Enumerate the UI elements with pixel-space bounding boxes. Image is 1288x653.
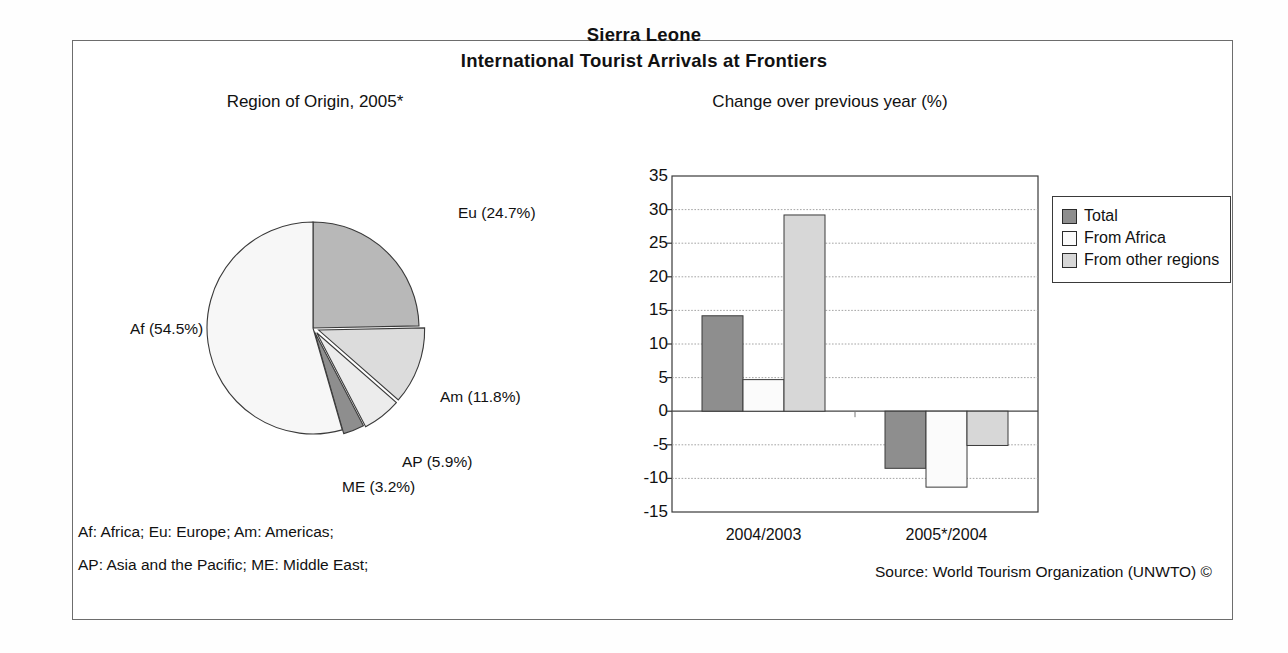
- legend-label-0: Total: [1084, 208, 1118, 224]
- legend-swatch-icon-2: [1062, 253, 1077, 268]
- footnote-regions-1: Af: Africa; Eu: Europe; Am: Americas;: [78, 523, 334, 541]
- bar-chart-legend: TotalFrom AfricaFrom other regions: [1052, 196, 1231, 283]
- bar-chart-title: Change over previous year (%): [610, 92, 1050, 112]
- legend-item-from-africa: From Africa: [1062, 230, 1219, 246]
- pie-label-ap: AP (5.9%): [402, 453, 472, 471]
- x-axis-label-1: 2005*/2004: [855, 526, 1038, 544]
- document-page: Sierra Leone International Tourist Arriv…: [0, 0, 1288, 653]
- bar-chart-x-axis: 2004/20032005*/2004: [620, 120, 1180, 530]
- pie-slice-eu: [313, 222, 419, 328]
- bar-chart: 35302520151050-5-10-15 2004/20032005*/20…: [620, 120, 1180, 530]
- pie-chart-title: Region of Origin, 2005*: [150, 92, 480, 112]
- legend-item-total: Total: [1062, 208, 1219, 224]
- pie-label-eu: Eu (24.7%): [458, 204, 536, 222]
- legend-label-2: From other regions: [1084, 252, 1219, 268]
- source-attribution: Source: World Tourism Organization (UNWT…: [875, 563, 1278, 581]
- page-title-line2: International Tourist Arrivals at Fronti…: [0, 50, 1288, 72]
- legend-swatch-icon-0: [1062, 209, 1077, 224]
- x-axis-label-0: 2004/2003: [672, 526, 855, 544]
- legend-item-from-other-regions: From other regions: [1062, 252, 1219, 268]
- pie-label-me: ME (3.2%): [342, 478, 415, 496]
- footnote-regions-2: AP: Asia and the Pacific; ME: Middle Eas…: [78, 556, 368, 574]
- legend-swatch-icon-1: [1062, 231, 1077, 246]
- legend-label-1: From Africa: [1084, 230, 1166, 246]
- pie-chart: Eu (24.7%) Am (11.8%) AP (5.9%) ME (3.2%…: [110, 120, 530, 500]
- page-title-line1: Sierra Leone: [0, 24, 1288, 46]
- pie-label-af: Af (54.5%): [130, 320, 203, 338]
- pie-chart-svg: [110, 120, 530, 500]
- pie-label-am: Am (11.8%): [440, 388, 521, 406]
